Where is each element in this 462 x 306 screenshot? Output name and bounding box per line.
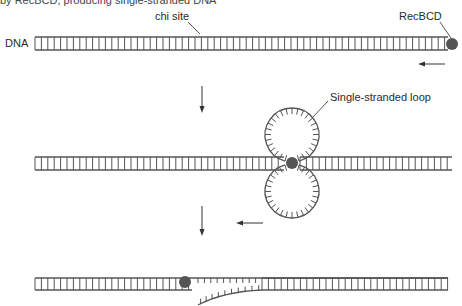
dna-label: DNA [5, 38, 28, 49]
chi-site-leader-line [188, 22, 200, 34]
recbcd-label: RecBCD [399, 11, 442, 22]
loop-leader-line [313, 101, 328, 117]
recbcd-leader-line [440, 22, 451, 38]
cropped-caption: by RecBCD, producing single-stranded DNA [0, 0, 216, 6]
dna-duplex-bottom [35, 278, 448, 290]
recbcd-protein-icon [286, 157, 298, 169]
arrow-down-icon [200, 206, 205, 236]
arrow-down-icon [200, 86, 205, 113]
dna-duplex-middle [35, 157, 452, 170]
arrow-left-icon [418, 62, 445, 67]
recbcd-diagram: by RecBCD, producing single-stranded DNA… [0, 0, 462, 306]
diagram-canvas [0, 0, 462, 306]
arrow-left-icon [236, 221, 263, 226]
single-stranded-loop-label: Single-stranded loop [330, 92, 431, 103]
chi-site-label: chi site [155, 11, 189, 22]
recbcd-protein-icon [446, 38, 458, 50]
recbcd-protein-icon [179, 276, 191, 288]
single-stranded-tail [198, 285, 262, 305]
dna-duplex-top [35, 37, 448, 50]
